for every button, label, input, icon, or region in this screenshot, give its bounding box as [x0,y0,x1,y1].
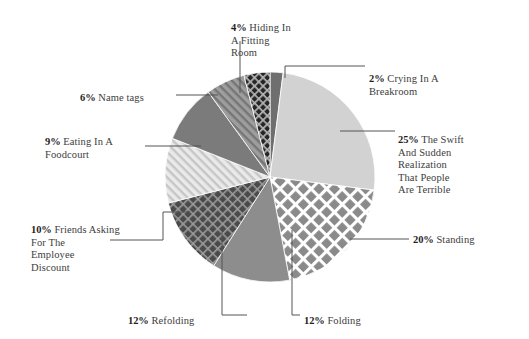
label-hiding-in-a-fitting-room: 4% Hiding In A Fitting Room [231,10,351,60]
label-crying-percent: 2% [369,73,385,84]
label-eating-in-a-foodcourt: 9% Eating In A Foodcourt [45,124,170,161]
label-folding: 12% Folding [304,303,424,328]
label-folding-percent: 12% [304,315,325,326]
label-friends-percent: 10% [31,224,52,235]
label-nametags-percent: 6% [80,92,96,103]
label-refolding-percent: 12% [128,315,149,326]
label-swift-percent: 25% [398,134,419,145]
label-refolding: 12% Refolding [128,303,248,328]
label-name-tags: 6% Name tags [80,80,200,105]
label-folding-text: Folding [327,315,360,326]
label-nametags-text: Name tags [98,92,144,103]
label-swift-realization: 25% The Swift And Sudden Realization Tha… [398,122,528,196]
label-refolding-text: Refolding [151,315,194,326]
label-crying-in-a-breakroom: 2% Crying In A Breakroom [369,61,524,98]
pie-chart-figure: 4% Hiding In A Fitting Room 2% Crying In… [0,0,529,339]
label-friends-asking-employee-discount: 10% Friends Asking For The Employee Disc… [31,212,166,274]
label-eating-percent: 9% [45,136,61,147]
label-standing-percent: 20% [413,234,434,245]
label-hiding-percent: 4% [231,22,247,33]
label-standing-text: Standing [436,234,474,245]
label-standing: 20% Standing [413,222,528,247]
